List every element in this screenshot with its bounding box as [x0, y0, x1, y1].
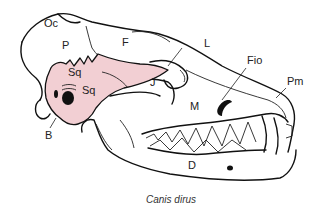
tooth-row — [142, 113, 292, 154]
label-squamosal-upper: Sq — [68, 66, 81, 78]
label-maxilla: M — [190, 100, 199, 112]
label-jugal: J — [150, 76, 156, 88]
label-occipital: Oc — [44, 17, 59, 29]
label-bulla: B — [45, 129, 52, 141]
label-infraorbital-foramen: Fio — [247, 54, 262, 66]
small-foramen — [54, 90, 58, 98]
label-squamosal-lower: Sq — [82, 84, 95, 96]
label-premaxilla: Pm — [287, 75, 304, 87]
label-dentary: D — [188, 159, 196, 171]
squamosal-bulla-region — [45, 54, 168, 125]
leader-b — [50, 118, 56, 128]
figure-caption: Canis dirus — [146, 194, 196, 205]
auditory-meatus — [62, 91, 74, 105]
leader-fio — [222, 68, 246, 100]
skull-diagram: Oc P F Sq Sq J L Fio Pm M B D Canis diru… — [0, 0, 318, 209]
label-parietal: P — [62, 39, 69, 51]
label-lacrimal: L — [204, 37, 210, 49]
infraorbital-foramen — [217, 100, 232, 116]
label-frontal: F — [122, 36, 129, 48]
mental-foramen — [227, 166, 233, 171]
